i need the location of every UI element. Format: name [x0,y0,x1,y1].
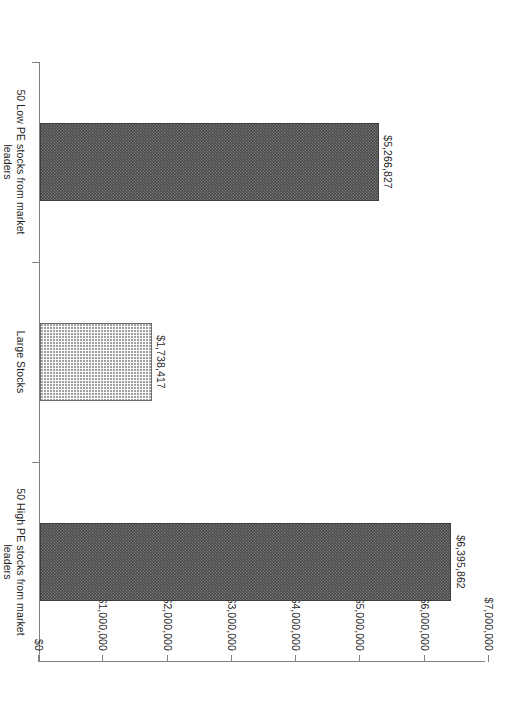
bar-chart: $0$1,000,000$2,000,000$3,000,000$4,000,0… [0,0,511,709]
category-label: Large Stocks [15,262,28,462]
category-tick [32,462,39,463]
axis-tick [38,655,39,662]
category-label: 50 Low PE stocks from marketleaders [2,62,27,262]
bar-value-label: $1,738,417 [156,335,167,389]
bar: $6,395,862 [40,523,451,601]
category-label-line: Large Stocks [15,262,28,462]
bar-value-label: $6,395,862 [455,535,466,589]
category-tick [32,262,39,263]
category-label-line: 50 Low PE stocks from market [15,62,28,262]
category-label-line: leaders [2,462,15,662]
category-tick [32,62,39,63]
bar-value-label: $5,266,827 [383,135,394,189]
category-label: 50 High PE stocks from marketleaders [2,462,27,662]
category-label-line: 50 High PE stocks from market [15,462,28,662]
bar-series: $5,266,827$1,738,417$6,395,862 [40,62,489,662]
bar: $1,738,417 [40,323,152,401]
chart-figure: $0$1,000,000$2,000,000$3,000,000$4,000,0… [0,0,511,709]
plot-area: $0$1,000,000$2,000,000$3,000,000$4,000,0… [39,62,489,662]
bar: $5,266,827 [40,123,379,201]
category-label-line: leaders [2,62,15,262]
